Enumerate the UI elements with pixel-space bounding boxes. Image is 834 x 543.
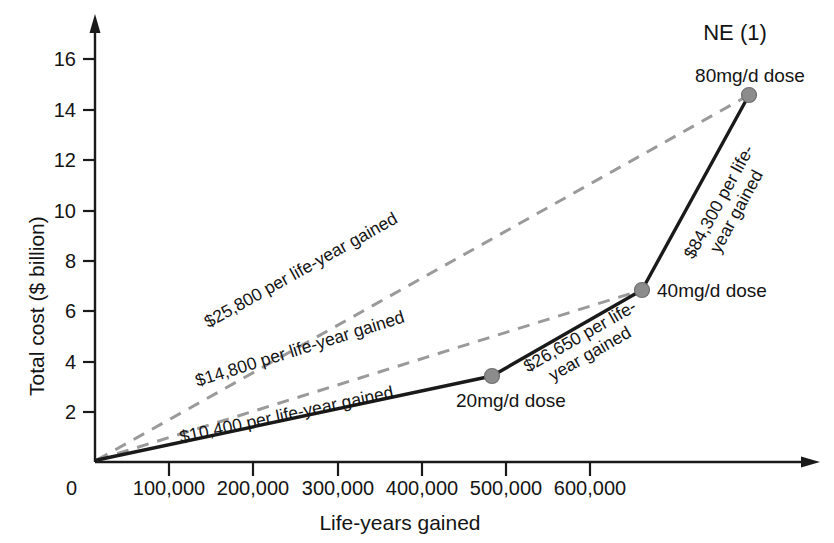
point-label-80mg: 80mg/d dose <box>695 66 805 85</box>
x-tick-label-400k: 400,000 <box>386 478 458 498</box>
y-axis-ticks <box>83 59 95 412</box>
y-tick-label-14: 14 <box>50 100 76 120</box>
y-axis-title: Total cost ($ billion) <box>26 216 47 396</box>
point-label-20mg: 20mg/d dose <box>456 391 566 410</box>
ne-quadrant-label: NE (1) <box>703 22 767 44</box>
x-tick-label-200k: 200,000 <box>217 478 289 498</box>
x-tick-label-500k: 500,000 <box>470 478 542 498</box>
y-tick-label-12: 12 <box>50 150 76 170</box>
origin-label: 0 <box>66 478 77 498</box>
point-label-40mg: 40mg/d dose <box>657 281 767 300</box>
x-tick-label-300k: 300,000 <box>302 478 374 498</box>
chart-figure: 16 14 12 10 8 6 4 2 0 100,000 200,000 30… <box>0 0 834 543</box>
y-tick-label-10: 10 <box>50 201 76 221</box>
y-tick-label-2: 2 <box>50 402 76 422</box>
y-tick-label-4: 4 <box>50 352 76 372</box>
y-tick-label-8: 8 <box>50 251 76 271</box>
marker-80mg[interactable] <box>742 88 757 103</box>
y-tick-label-16: 16 <box>50 49 76 69</box>
x-axis <box>95 457 820 468</box>
marker-20mg[interactable] <box>485 369 500 384</box>
x-tick-label-600k: 600,000 <box>554 478 626 498</box>
y-axis <box>90 14 101 462</box>
x-axis-ticks <box>169 462 590 476</box>
y-tick-label-6: 6 <box>50 301 76 321</box>
series-acer-80-line <box>97 95 749 460</box>
x-tick-label-100k: 100,000 <box>133 478 205 498</box>
x-axis-title: Life-years gained <box>319 512 480 533</box>
